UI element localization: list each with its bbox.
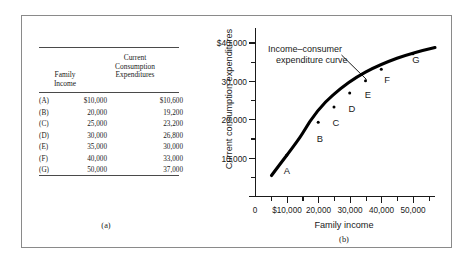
table-row: (F) 40,000 33,000: [39, 155, 179, 167]
data-point-label-f: F: [380, 74, 394, 85]
data-point-label-a: A: [280, 165, 294, 176]
row-consumption-expenditures: $10,600: [117, 97, 183, 105]
row-consumption-expenditures: 37,000: [117, 166, 183, 174]
row-family-income: 50,000: [55, 166, 107, 174]
data-point-label-e: E: [361, 89, 375, 100]
table-header-consumption-expenditures: Current Consumption Expenditures: [100, 54, 170, 80]
table-row: (B) 20,000 19,200: [39, 109, 179, 121]
panel-b-chart: Current consumption expenditures 10,000 …: [202, 16, 453, 249]
data-point-label-g: G: [409, 54, 423, 65]
table-row: (D) 30,000 26,800: [39, 132, 179, 144]
curve-annotation: Income–consumer expenditure curve: [268, 44, 388, 67]
header-expenditures: Expenditures: [100, 71, 170, 80]
header-income: Income: [42, 80, 88, 89]
row-family-income: $10,000: [55, 97, 107, 105]
row-consumption-expenditures: 19,200: [117, 109, 183, 117]
row-family-income: 20,000: [55, 109, 107, 117]
table-rule-top: [39, 47, 179, 48]
panel-b-caption: (b): [264, 235, 424, 244]
row-family-income: 25,000: [55, 120, 107, 128]
row-family-income: 40,000: [55, 155, 107, 163]
table-row: (G) 50,000 37,000: [39, 166, 179, 178]
data-point-label-b: B: [313, 133, 327, 144]
figure-frame: Family Income Current Consumption Expend…: [21, 15, 452, 248]
row-consumption-expenditures: 33,000: [117, 155, 183, 163]
data-point-label-c: C: [329, 117, 343, 128]
panel-a-caption: (a): [66, 221, 146, 230]
table-header-family-income: Family Income: [42, 71, 88, 88]
data-point-label-d: D: [345, 103, 359, 114]
table-row: (C) 25,000 23,200: [39, 120, 179, 132]
row-consumption-expenditures: 26,800: [117, 132, 183, 140]
x-axis-title: Family income: [264, 220, 424, 230]
row-family-income: 35,000: [55, 143, 107, 151]
table-rule-middle: [39, 92, 179, 93]
annotation-line-2: expenditure curve: [268, 55, 388, 66]
row-family-income: 30,000: [55, 132, 107, 140]
table-row: (E) 35,000 30,000: [39, 143, 179, 155]
row-consumption-expenditures: 30,000: [117, 143, 183, 151]
annotation-line-1: Income–consumer: [268, 44, 388, 55]
row-consumption-expenditures: 23,200: [117, 120, 183, 128]
table-row: (A) $10,000 $10,600: [39, 97, 179, 109]
panel-a-table: Family Income Current Consumption Expend…: [22, 16, 202, 249]
